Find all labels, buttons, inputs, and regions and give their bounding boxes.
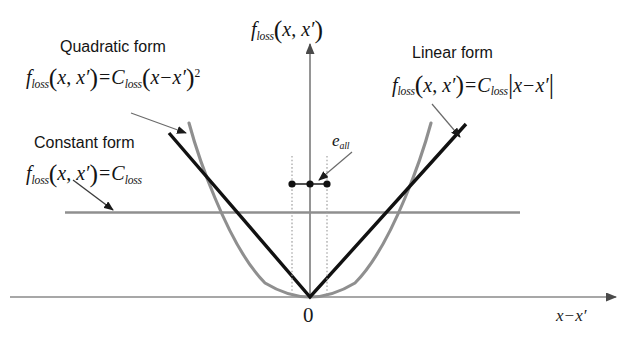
- eall-e: e: [332, 131, 340, 150]
- marker-dot-left: [288, 180, 295, 187]
- y-axis-close-paren: ): [315, 15, 324, 44]
- quad-minus: −: [159, 66, 172, 88]
- const-c: C: [111, 162, 124, 184]
- quad-arg2: x′: [76, 66, 89, 88]
- constant-form-heading: Constant form: [34, 134, 134, 152]
- const-arg2: x′: [76, 162, 89, 184]
- lin-arg1: x: [423, 74, 432, 96]
- marker-dot-right: [323, 180, 330, 187]
- eall-sub: all: [340, 140, 350, 151]
- eall-label: eall: [332, 131, 349, 151]
- quad-f-sub: loss: [32, 78, 49, 91]
- lin-f-sub: loss: [398, 85, 415, 98]
- origin-label: 0: [303, 303, 314, 328]
- quadratic-form-heading: Quadratic form: [60, 38, 166, 56]
- constant-form-formula: floss(x, x′)=Closs: [26, 159, 142, 189]
- const-close-paren: ): [90, 159, 99, 188]
- const-c-sub: loss: [125, 174, 142, 187]
- quad-inner2: x′: [173, 66, 186, 88]
- loss-function-diagram: floss(x, x′) x−x′ 0 Quadratic form floss…: [0, 0, 636, 337]
- quad-arg1: x: [57, 66, 66, 88]
- x-axis-label: x−x′: [556, 306, 586, 326]
- lin-c: C: [477, 74, 490, 96]
- lin-inner2: x′: [535, 74, 548, 96]
- quad-inner1: x: [150, 66, 159, 88]
- lin-minus: −: [522, 74, 535, 96]
- lin-c-sub: loss: [491, 85, 508, 98]
- linear-form-formula: floss(x, x′)=Closs|x−x′|: [392, 69, 554, 100]
- y-axis-arg2: x′: [301, 18, 314, 40]
- lin-inner1: x: [513, 74, 522, 96]
- x-axis-arg1: x: [556, 306, 564, 325]
- y-axis-arg1: x: [282, 18, 291, 40]
- const-comma: ,: [66, 162, 76, 184]
- y-axis-comma: ,: [291, 18, 301, 40]
- marker-dot-center: [306, 180, 313, 187]
- lin-close-paren: ): [456, 70, 465, 99]
- x-axis-arg2: x′: [575, 306, 586, 325]
- eall-leader-arrow: [319, 152, 352, 180]
- linear-leader-arrow: [432, 104, 460, 137]
- quad-equals: =: [98, 66, 111, 88]
- const-equals: =: [98, 162, 111, 184]
- quad-close-paren: ): [90, 63, 99, 92]
- linear-form-heading: Linear form: [412, 44, 493, 62]
- const-arg1: x: [57, 162, 66, 184]
- lin-equals: =: [464, 74, 477, 96]
- quad-c: C: [111, 66, 124, 88]
- quad-c-sub: loss: [125, 78, 142, 91]
- y-axis-label: floss(x, x′): [251, 15, 323, 45]
- x-axis-minus: −: [564, 306, 576, 325]
- const-f-sub: loss: [32, 174, 49, 187]
- lin-arg2: x′: [442, 74, 455, 96]
- y-axis-f-sub: loss: [257, 30, 274, 43]
- lin-comma: ,: [432, 74, 442, 96]
- quad-comma: ,: [66, 66, 76, 88]
- quadratic-form-formula: floss(x, x′)=Closs(x−x′)2: [26, 63, 200, 93]
- quadratic-leader-arrow: [131, 113, 186, 133]
- lin-bar-close: |: [549, 69, 554, 99]
- quad-exponent: 2: [194, 67, 200, 80]
